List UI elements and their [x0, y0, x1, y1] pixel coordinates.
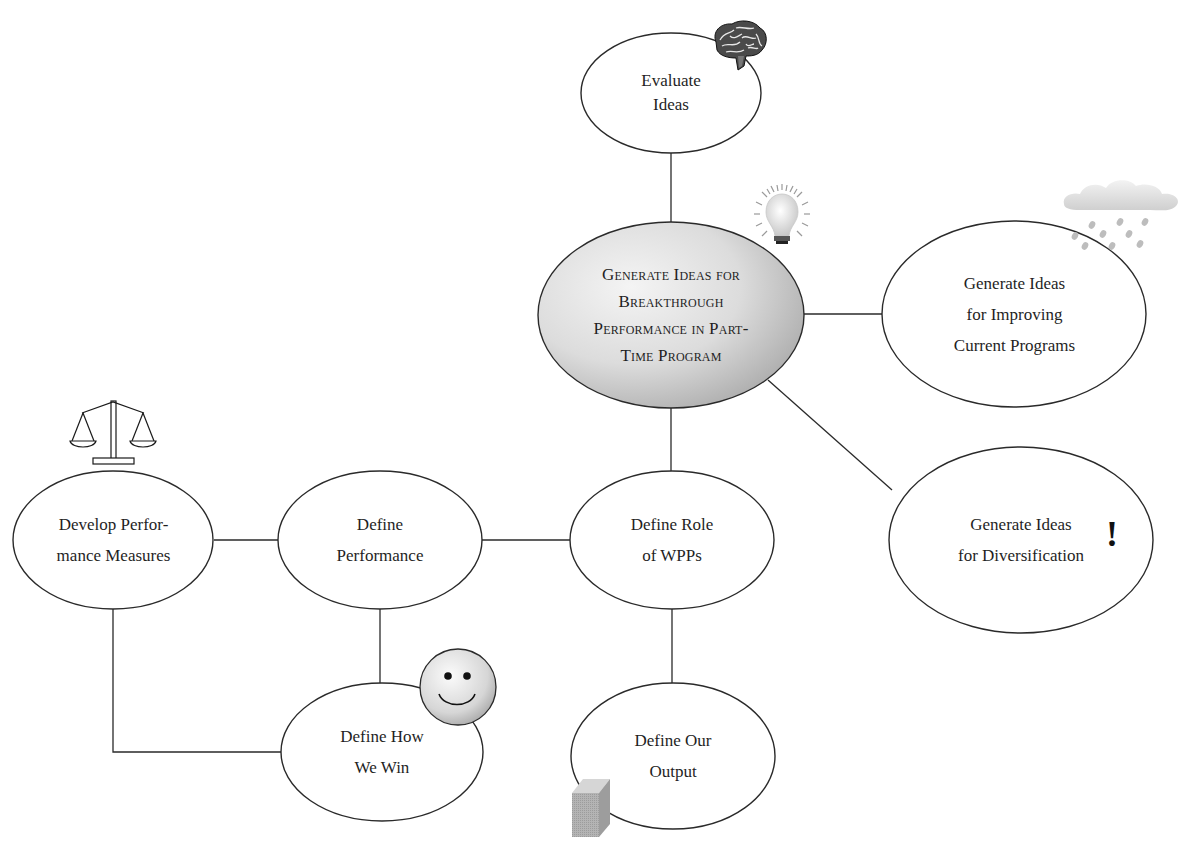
node-define-role[interactable]	[570, 471, 774, 609]
node-develop-measures[interactable]	[13, 471, 213, 609]
lightbulb-icon	[754, 184, 810, 244]
scales-icon	[70, 401, 156, 464]
smiley-icon	[420, 649, 496, 725]
exclamation-icon: !	[1106, 514, 1118, 554]
node-improving-current[interactable]	[882, 221, 1146, 407]
node-define-performance[interactable]	[278, 471, 482, 609]
cube-icon	[572, 779, 610, 837]
diagram-canvas	[0, 0, 1192, 851]
mind-map-diagram: Evaluate Ideas Generate Ideas for Breakt…	[0, 0, 1192, 851]
edge-central-diversification	[768, 380, 892, 490]
edge-measures-win	[113, 609, 282, 752]
connectors	[113, 153, 892, 752]
node-central[interactable]	[538, 222, 804, 408]
